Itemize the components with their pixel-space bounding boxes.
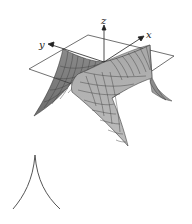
figure-canvas: z y x [0, 0, 192, 224]
y-arrow-icon [48, 42, 54, 47]
x-arrow-icon [138, 36, 144, 41]
x-axis-label: x [146, 29, 152, 40]
cusp-curve [13, 155, 60, 209]
y-axis-label: y [38, 39, 45, 50]
z-axis-label: z [100, 15, 107, 26]
